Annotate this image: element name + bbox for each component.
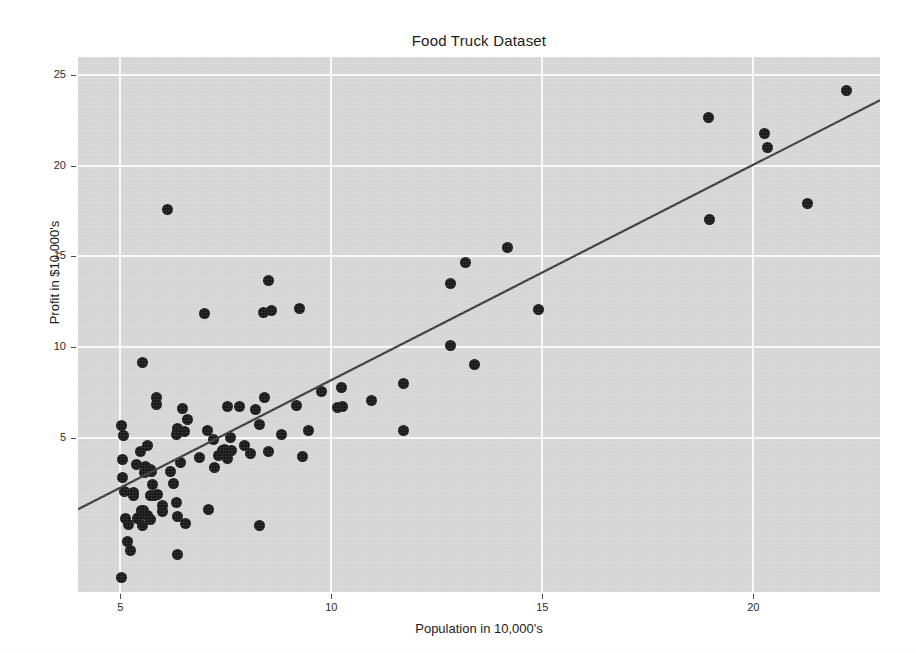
x-tick-label-1: 10: [311, 601, 351, 613]
x-tick-label-3: 20: [733, 601, 773, 613]
x-tick-2: [542, 594, 543, 599]
y-tick-3: [71, 166, 76, 167]
y-tick-4: [71, 75, 76, 76]
x-tick-3: [753, 594, 754, 599]
x-tick-1: [331, 594, 332, 599]
y-tick-label-0: 5: [26, 431, 66, 443]
x-tick-label-0: 5: [100, 601, 140, 613]
plot-panel: [78, 57, 880, 592]
y-tick-0: [71, 438, 76, 439]
y-tick-1: [71, 347, 76, 348]
y-axis-label: Profit in $10,000's: [47, 143, 62, 403]
regression-line: [78, 57, 880, 592]
chart-title: Food Truck Dataset: [78, 32, 880, 49]
x-tick-0: [120, 594, 121, 599]
x-tick-label-2: 15: [522, 601, 562, 613]
y-tick-2: [71, 256, 76, 257]
y-tick-label-4: 25: [26, 68, 66, 80]
x-axis-label: Population in 10,000's: [78, 621, 880, 636]
chart-figure: Food Truck Dataset 5101520 510152025 Pop…: [0, 0, 916, 653]
